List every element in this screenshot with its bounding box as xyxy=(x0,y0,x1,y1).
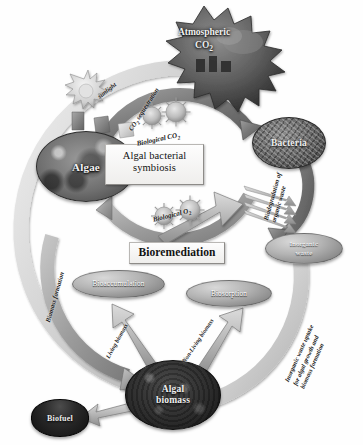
symbiosis-line1: Algal bacterial xyxy=(123,150,187,161)
biosorption-label: Biosorption xyxy=(211,290,247,298)
node-algal-biomass: Algal biomass xyxy=(125,360,221,430)
bioremediation-label: Bioremediation xyxy=(138,246,215,258)
arrow-non-living-biomass xyxy=(196,308,243,376)
symbiosis-line2: symbiosis xyxy=(133,162,176,173)
algal-biomass-label: Algal biomass xyxy=(156,384,190,406)
node-atmospheric-co2: Atmospheric CO2 xyxy=(148,6,260,82)
node-bioaccumulation: Bioaccumulation xyxy=(72,270,165,298)
node-biosorption: Biosorption xyxy=(186,280,272,307)
node-bacteria: Bacteria xyxy=(252,117,326,169)
bacteria-label: Bacteria xyxy=(271,138,307,148)
algae-label: Algae xyxy=(72,161,100,173)
atmospheric-co2-label: Atmospheric CO2 xyxy=(148,26,260,55)
box-algal-bacterial-symbiosis: Algal bacterial symbiosis xyxy=(105,144,204,185)
bioaccumulation-label: Bioaccumulation xyxy=(92,280,144,288)
node-inorganic-waste: Inorganic waste xyxy=(265,233,343,264)
biofuel-label: Biofuel xyxy=(47,414,73,423)
bioremediation-diagram: Atmospheric CO2 Algae Bacteria Inorganic… xyxy=(0,0,363,445)
node-biofuel: Biofuel xyxy=(31,399,89,437)
inorganic-waste-label: Inorganic waste xyxy=(290,240,319,257)
box-bioremediation: Bioremediation xyxy=(129,242,225,264)
